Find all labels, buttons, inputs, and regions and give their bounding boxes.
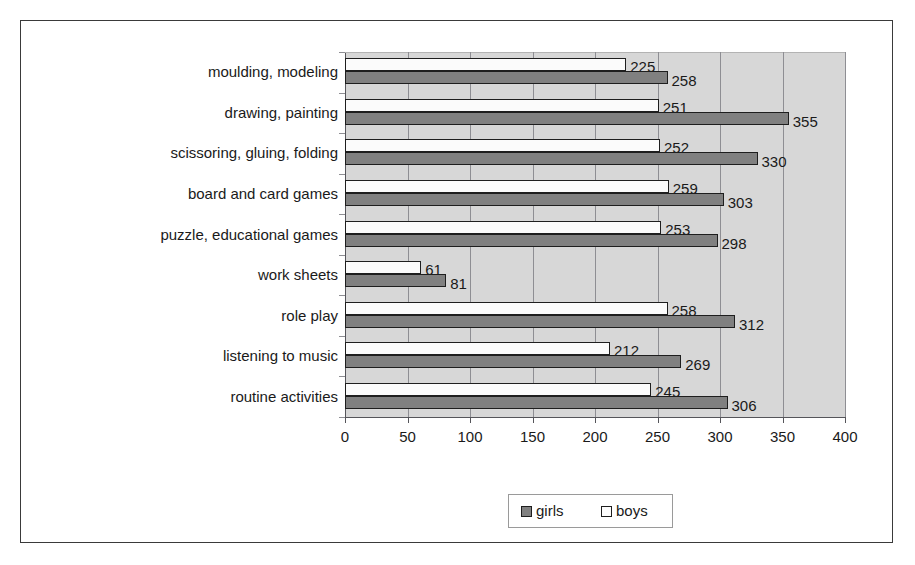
bar-boys: [345, 139, 660, 152]
y-axis-tick: [339, 174, 345, 175]
x-axis-tick-label: 300: [690, 428, 750, 445]
chart-figure: moulding, modelingdrawing, paintingsciss…: [0, 0, 915, 565]
x-axis-tick: [658, 417, 659, 423]
bar-boys: [345, 261, 421, 274]
boys-swatch-icon: [601, 506, 612, 517]
y-axis-tick: [339, 255, 345, 256]
bar-girls: [345, 315, 735, 328]
y-axis-tick: [339, 52, 345, 53]
x-axis-tick: [720, 417, 721, 423]
y-axis-tick: [339, 376, 345, 377]
gridline: [783, 52, 784, 417]
x-axis-tick: [408, 417, 409, 423]
bar-girls: [345, 274, 446, 287]
girls-swatch-icon: [521, 506, 532, 517]
x-axis-tick-label: 250: [628, 428, 688, 445]
legend-entry-girls: girls: [521, 502, 564, 520]
bar-girls: [345, 112, 789, 125]
bar-boys: [345, 302, 668, 315]
y-axis-tick: [339, 93, 345, 94]
y-axis-category-label: drawing, painting: [8, 105, 338, 121]
y-axis-category-labels: moulding, modelingdrawing, paintingsciss…: [0, 52, 338, 417]
bar-value-label-girls: 269: [685, 357, 710, 372]
gridline: [845, 52, 846, 417]
bar-boys: [345, 99, 659, 112]
bar-boys: [345, 180, 669, 193]
x-axis-tick: [470, 417, 471, 423]
bar-value-label-girls: 303: [728, 195, 753, 210]
x-axis-tick-label: 100: [440, 428, 500, 445]
bar-girls: [345, 355, 681, 368]
x-axis-tick: [595, 417, 596, 423]
y-axis-category-label: board and card games: [8, 186, 338, 202]
x-axis-tick-label: 0: [315, 428, 375, 445]
bar-value-label-girls: 330: [762, 154, 787, 169]
x-axis-tick-label: 350: [753, 428, 813, 445]
y-axis-tick: [339, 133, 345, 134]
bar-boys: [345, 221, 661, 234]
y-axis-category-label: routine activities: [8, 389, 338, 405]
x-axis-tick: [845, 417, 846, 423]
bar-value-label-girls: 81: [450, 276, 467, 291]
bar-boys: [345, 383, 651, 396]
y-axis-category-label: role play: [8, 308, 338, 324]
bar-girls: [345, 152, 758, 165]
bar-girls: [345, 396, 728, 409]
bar-girls: [345, 193, 724, 206]
x-axis-tick-label: 50: [378, 428, 438, 445]
legend-label-boys: boys: [616, 502, 648, 520]
x-axis-tick-label: 200: [565, 428, 625, 445]
bar-value-label-girls: 258: [672, 73, 697, 88]
gridline: [720, 52, 721, 417]
legend-label-girls: girls: [536, 502, 564, 520]
bar-boys: [345, 58, 626, 71]
x-axis-tick-label: 400: [815, 428, 875, 445]
y-axis-category-label: puzzle, educational games: [8, 227, 338, 243]
y-axis-tick: [339, 214, 345, 215]
x-axis-tick: [783, 417, 784, 423]
y-axis-category-label: work sheets: [8, 267, 338, 283]
y-axis-tick: [339, 336, 345, 337]
bar-value-label-girls: 355: [793, 114, 818, 129]
y-axis-category-label: listening to music: [8, 348, 338, 364]
x-axis-tick: [533, 417, 534, 423]
x-axis-tick-label: 150: [503, 428, 563, 445]
bar-boys: [345, 342, 610, 355]
bar-girls: [345, 71, 668, 84]
chart-legend: girls boys: [508, 494, 673, 528]
y-axis-category-label: moulding, modeling: [8, 64, 338, 80]
y-axis-category-label: scissoring, gluing, folding: [8, 145, 338, 161]
x-axis-tick: [345, 417, 346, 423]
bar-girls: [345, 234, 718, 247]
legend-entry-boys: boys: [601, 502, 648, 520]
y-axis-tick: [339, 295, 345, 296]
bar-value-label-girls: 312: [739, 317, 764, 332]
bar-value-label-girls: 298: [722, 236, 747, 251]
bar-value-label-girls: 306: [732, 398, 757, 413]
